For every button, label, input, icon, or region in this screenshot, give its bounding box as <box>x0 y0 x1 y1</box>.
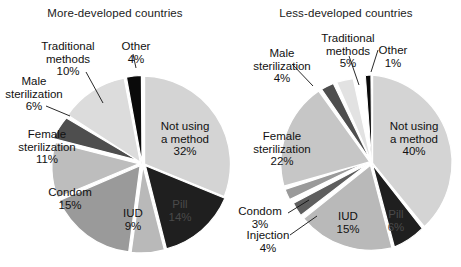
label-traditional-methods: Traditional methods 10% <box>22 40 114 78</box>
label-not-using-a-method: Not using a method 32% <box>150 120 220 158</box>
chart-panel-less-developed: Less-developed countries <box>231 0 461 267</box>
label-pill-value: 14% <box>163 211 197 224</box>
label-female-sterilization-line1: Female <box>8 128 86 141</box>
label-condom-line1: Condom <box>229 205 291 218</box>
label-iud-value: 15% <box>329 223 367 236</box>
label-condom: Condom 3% <box>229 205 291 230</box>
label-traditional-methods-line1: Traditional <box>22 40 114 53</box>
label-other: Other 4% <box>113 40 159 65</box>
label-pill: Pill 14% <box>163 198 197 223</box>
label-pill-line1: Pill <box>163 198 197 211</box>
label-injection: Injection 4% <box>237 229 299 254</box>
label-condom-line1: Condom <box>36 186 104 199</box>
label-female-sterilization-line2: sterilization <box>8 141 86 154</box>
label-male-sterilization: Male sterilization 6% <box>0 75 70 113</box>
label-traditional-methods-line2: methods <box>22 53 114 66</box>
label-iud: IUD 9% <box>114 207 152 232</box>
label-traditional-methods-line1: Traditional <box>307 32 389 45</box>
label-other-line1: Other <box>113 40 159 53</box>
label-male-sterilization-line2: sterilization <box>0 88 70 101</box>
label-female-sterilization-value: 22% <box>241 155 323 168</box>
label-not-using-a-method-value: 32% <box>150 145 220 158</box>
label-other-value: 4% <box>113 53 159 66</box>
label-female-sterilization-line1: Female <box>241 130 323 143</box>
label-injection-value: 4% <box>237 242 299 255</box>
label-not-using-a-method-line2: a method <box>150 133 220 146</box>
chart-panel-more-developed: More-developed countries <box>0 0 230 267</box>
label-male-sterilization-line1: Male <box>246 47 318 60</box>
label-female-sterilization: Female sterilization 22% <box>241 130 323 168</box>
label-male-sterilization-value: 4% <box>246 72 318 85</box>
label-iud-value: 9% <box>114 220 152 233</box>
label-pill: Pill 6% <box>379 208 413 233</box>
label-not-using-a-method-value: 40% <box>379 145 449 158</box>
label-male-sterilization-value: 6% <box>0 100 70 113</box>
label-not-using-a-method-line2: a method <box>379 133 449 146</box>
label-other-line1: Other <box>372 44 414 57</box>
label-male-sterilization-line2: sterilization <box>246 60 318 73</box>
label-not-using-a-method-line1: Not using <box>150 120 220 133</box>
label-not-using-a-method: Not using a method 40% <box>379 120 449 158</box>
label-condom: Condom 15% <box>36 186 104 211</box>
label-iud: IUD 15% <box>329 210 367 235</box>
label-female-sterilization-line2: sterilization <box>241 143 323 156</box>
label-pill-value: 6% <box>379 221 413 234</box>
label-injection-line1: Injection <box>237 229 299 242</box>
pie-chart-figure: More-developed countries <box>0 0 461 267</box>
label-male-sterilization-line1: Male <box>0 75 70 88</box>
label-other: Other 1% <box>372 44 414 69</box>
label-female-sterilization-value: 11% <box>8 153 86 166</box>
label-iud-line1: IUD <box>114 207 152 220</box>
label-female-sterilization: Female sterilization 11% <box>8 128 86 166</box>
label-condom-value: 15% <box>36 199 104 212</box>
label-male-sterilization: Male sterilization 4% <box>246 47 318 85</box>
label-iud-line1: IUD <box>329 210 367 223</box>
label-pill-line1: Pill <box>379 208 413 221</box>
label-other-value: 1% <box>372 57 414 70</box>
label-not-using-a-method-line1: Not using <box>379 120 449 133</box>
